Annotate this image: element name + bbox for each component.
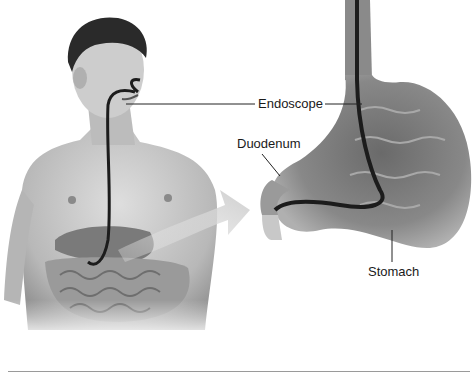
duodenum-label: Duodenum <box>237 136 301 151</box>
stomach-detail <box>260 0 471 248</box>
human-figure <box>0 17 230 340</box>
duodenum-leader-line <box>262 154 280 176</box>
endoscopy-illustration <box>0 0 476 374</box>
endoscope-label: Endoscope <box>258 96 323 111</box>
stomach-label: Stomach <box>368 264 419 279</box>
bottom-divider <box>8 371 470 372</box>
